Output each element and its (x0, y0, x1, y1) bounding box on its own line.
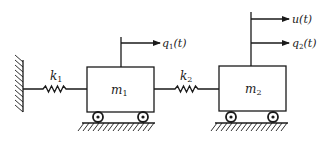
wheel-icon (226, 112, 236, 122)
wheel-icon (93, 112, 103, 122)
mass-spring-diagram: k1 m1 (0, 0, 328, 141)
spring-k1-label: k1 (50, 69, 62, 84)
spring-k2: k2 (154, 69, 219, 92)
ground-m1 (78, 123, 155, 131)
u-label: u(t) (292, 13, 312, 26)
q2-label: q2(t) (292, 37, 317, 51)
q1-label: q1(t) (162, 37, 187, 51)
wheel-icon (138, 112, 148, 122)
spring-k2-label: k2 (180, 69, 192, 84)
fixed-wall (15, 55, 23, 112)
wheel-icon (268, 112, 278, 122)
mass-m1-label: m1 (111, 83, 127, 98)
mass-m2-label: m2 (245, 82, 261, 97)
mass-m2: m2 (219, 66, 286, 122)
spring-k1: k1 (23, 69, 87, 92)
mass-m1: m1 (87, 67, 154, 122)
displacement-arrows-m2: u(t) q2(t) (251, 12, 317, 66)
ground-m2 (211, 123, 288, 131)
displacement-arrow-q1: q1(t) (121, 37, 187, 67)
